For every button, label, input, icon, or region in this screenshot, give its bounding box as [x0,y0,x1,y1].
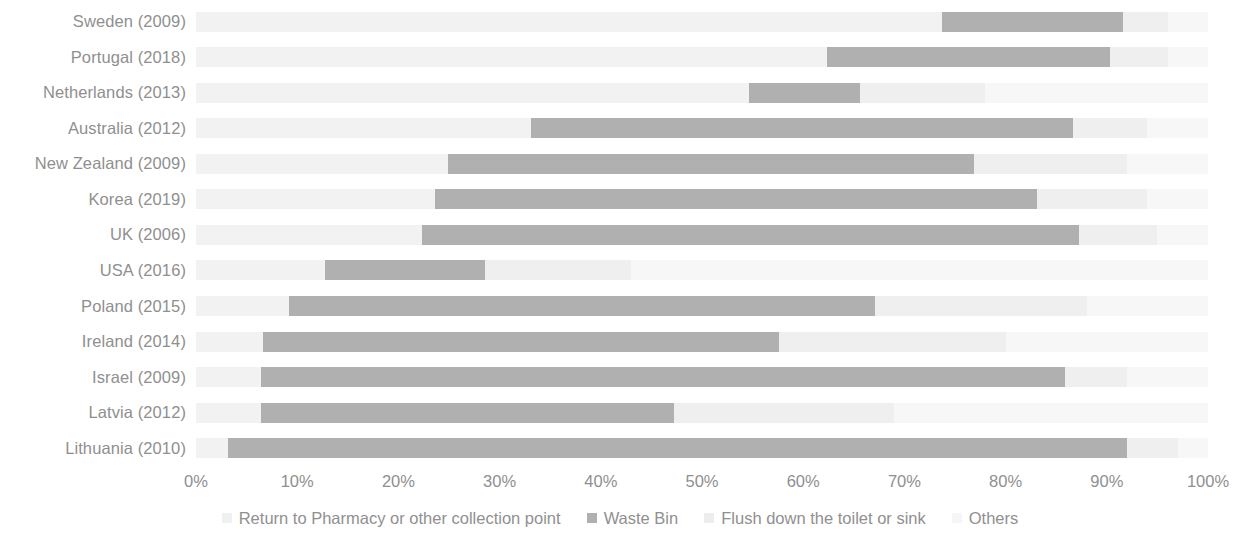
bar-segment [1073,118,1147,138]
bar-segment [228,438,1127,458]
plot-area [196,4,1208,466]
table-row [196,182,1208,218]
x-axis-tick-label: 80% [989,472,1022,491]
stacked-bar [196,296,1208,316]
stacked-bar [196,118,1208,138]
category-label: Ireland (2014) [0,324,186,360]
bar-segment [749,83,860,103]
category-label: Sweden (2009) [0,4,186,40]
bar-segment [1168,12,1208,32]
bar-segment [448,154,974,174]
table-row [196,75,1208,111]
bar-segment [1127,438,1178,458]
x-axis-tick-label: 10% [281,472,314,491]
legend-swatch-icon [222,513,232,523]
category-label: Australia (2012) [0,111,186,147]
legend-item[interactable]: Flush down the toilet or sink [704,509,926,528]
table-row [196,253,1208,289]
bar-segment [196,296,289,316]
x-axis-tick-label: 50% [685,472,718,491]
bar-segment [289,296,875,316]
bar-segment [531,118,1073,138]
bar-segment [196,225,422,245]
bar-segment [196,367,261,387]
legend-label: Return to Pharmacy or other collection p… [239,509,561,528]
category-label: New Zealand (2009) [0,146,186,182]
category-label: Korea (2019) [0,182,186,218]
legend-swatch-icon [952,513,962,523]
bar-segment [974,154,1127,174]
stacked-bar [196,332,1208,352]
legend-item[interactable]: Waste Bin [587,509,679,528]
table-row [196,288,1208,324]
bar-segment [1065,367,1127,387]
stacked-bar [196,367,1208,387]
stacked-bar-chart: Sweden (2009)Portugal (2018)Netherlands … [0,0,1240,534]
category-label: Lithuania (2010) [0,430,186,466]
bar-segment [1127,154,1208,174]
category-label: Portugal (2018) [0,40,186,76]
bar-segment [196,189,435,209]
x-axis-tick-label: 20% [382,472,415,491]
category-label: Netherlands (2013) [0,75,186,111]
bar-segment [674,403,895,423]
bar-segment [1079,225,1157,245]
stacked-bar [196,154,1208,174]
bar-segment [261,403,674,423]
bar-segment [261,367,1066,387]
bar-segment [422,225,1080,245]
legend-label: Waste Bin [604,509,679,528]
stacked-bar [196,12,1208,32]
bar-segment [1006,332,1208,352]
bar-segment [196,403,261,423]
bar-segment [196,154,448,174]
bar-segment [1123,12,1168,32]
legend-swatch-icon [704,513,714,523]
bar-segment [1110,47,1168,67]
category-label: Israel (2009) [0,359,186,395]
bar-segment [196,332,263,352]
legend-item[interactable]: Return to Pharmacy or other collection p… [222,509,561,528]
category-label: UK (2006) [0,217,186,253]
bar-segment [1037,189,1147,209]
stacked-bar [196,47,1208,67]
bar-segment [196,438,228,458]
table-row [196,40,1208,76]
bar-segment [1168,47,1208,67]
table-row [196,395,1208,431]
bar-segment [196,260,325,280]
x-axis-tick-label: 70% [888,472,921,491]
bar-segment [435,189,1037,209]
bar-segment [196,47,827,67]
legend-swatch-icon [587,513,597,523]
bar-segment [779,332,1006,352]
bar-segment [894,403,1208,423]
legend-label: Flush down the toilet or sink [721,509,926,528]
bar-segment [1127,367,1208,387]
x-axis-tick-label: 0% [184,472,208,491]
category-label: Latvia (2012) [0,395,186,431]
stacked-bar [196,438,1208,458]
stacked-bar [196,260,1208,280]
x-axis-tick-label: 30% [483,472,516,491]
bar-segment [196,118,531,138]
bar-segment [631,260,1208,280]
stacked-bar [196,83,1208,103]
legend-item[interactable]: Others [952,509,1019,528]
bar-segment [196,12,942,32]
bar-segment [1178,438,1208,458]
bar-segment [942,12,1123,32]
category-label: Poland (2015) [0,288,186,324]
x-axis: 0%10%20%30%40%50%60%70%80%90%100% [196,472,1208,496]
bar-segment [985,83,1208,103]
bar-segment [263,332,779,352]
bar-rows [196,4,1208,466]
bar-segment [860,83,985,103]
x-axis-tick-label: 40% [584,472,617,491]
x-axis-tick-label: 90% [1090,472,1123,491]
stacked-bar [196,403,1208,423]
category-axis: Sweden (2009)Portugal (2018)Netherlands … [0,4,186,466]
table-row [196,430,1208,466]
bar-segment [196,83,749,103]
table-row [196,4,1208,40]
